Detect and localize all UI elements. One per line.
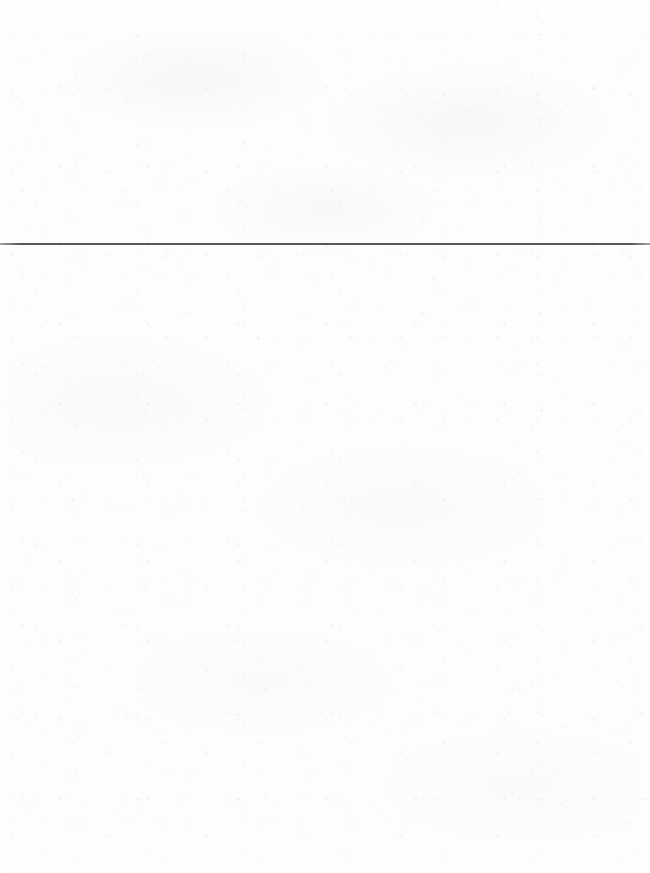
page-region-above-rule (0, 0, 650, 243)
scanned-page (0, 0, 650, 873)
page-region-below-rule (0, 245, 650, 873)
